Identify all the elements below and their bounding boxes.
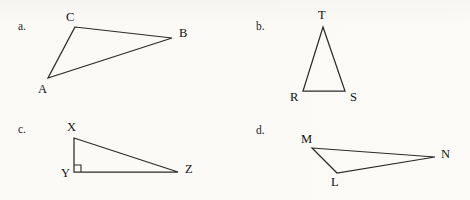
vertex-label-R: R [290,90,299,104]
triangles-figure: a.CBAb.TSRc.XZYd.MNL [0,0,470,200]
figure-item-a: a.CBA [18,10,187,96]
item-letter: d. [256,124,265,136]
item-letter: a. [18,20,26,32]
figure-item-d: d.MNL [256,124,450,189]
vertex-label-S: S [350,90,357,104]
triangle-abc [48,27,172,78]
figure-item-b: b.TSR [256,8,357,104]
triangle-xyz [74,138,178,172]
vertex-label-A: A [38,82,47,96]
vertex-label-T: T [318,8,326,22]
figure-item-c: c.XZY [18,120,193,180]
triangle-rst [303,27,345,91]
vertex-label-B: B [179,26,187,40]
item-letter: b. [256,20,265,32]
right-angle-icon [74,165,81,172]
vertex-label-X: X [67,120,76,134]
worksheet-page: a.CBAb.TSRc.XZYd.MNL [0,0,470,200]
item-letter: c. [18,123,26,135]
vertex-label-L: L [331,175,339,189]
vertex-label-Y: Y [61,166,70,180]
vertex-label-Z: Z [185,162,193,176]
vertex-label-N: N [441,147,450,161]
vertex-label-M: M [301,132,312,146]
vertex-label-C: C [66,10,74,24]
triangle-lmn [312,148,435,173]
